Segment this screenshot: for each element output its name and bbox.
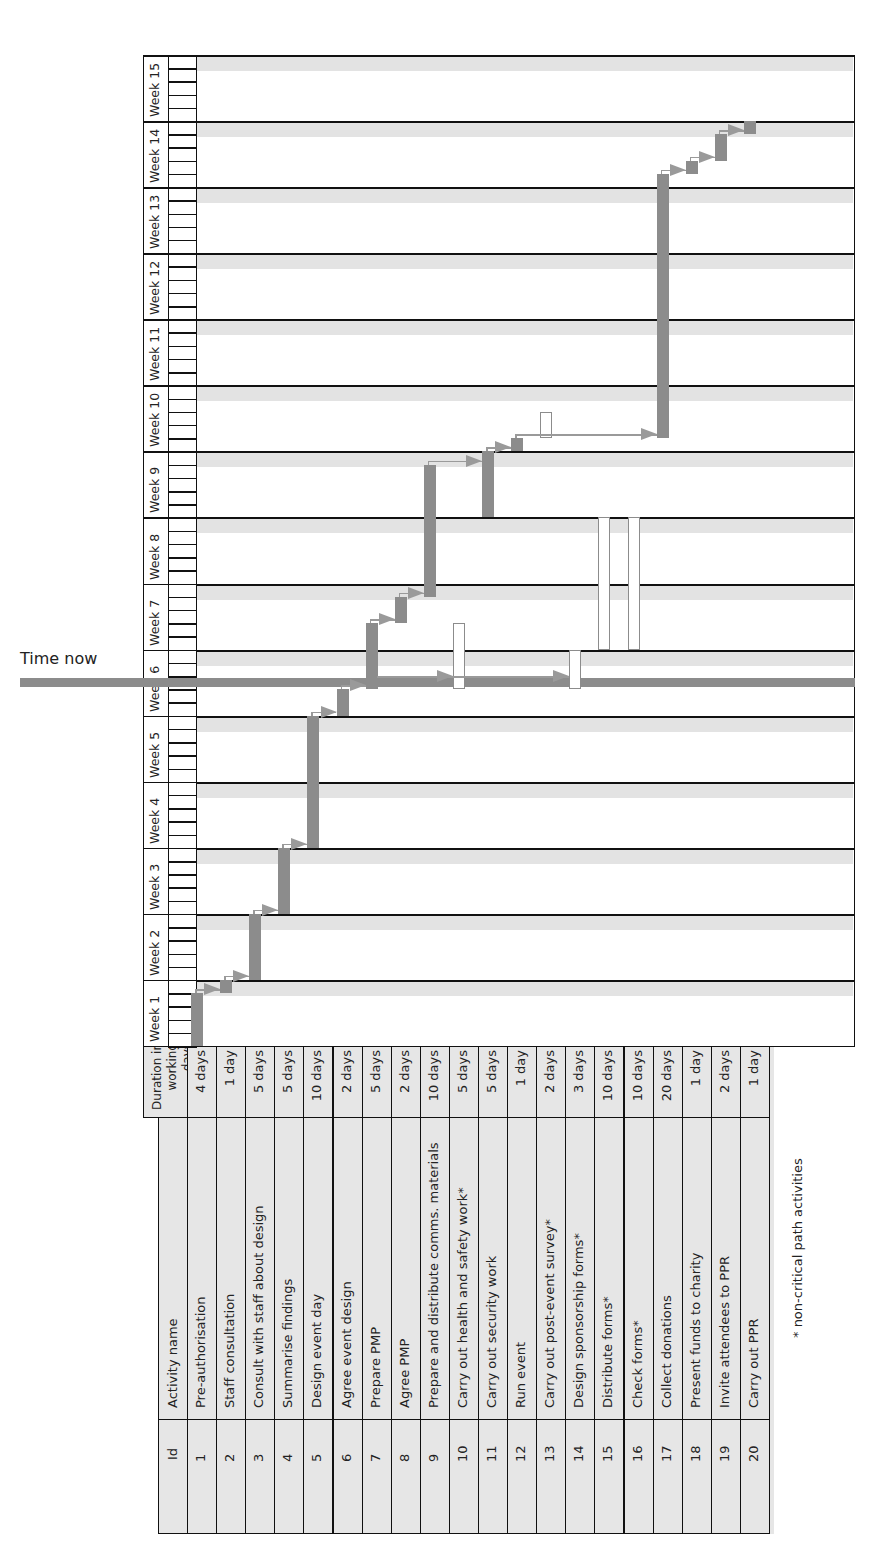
critical-task-bar [424, 465, 436, 597]
dependency-arrow-icon [553, 670, 569, 682]
table-row-duration: 5 days [280, 1050, 295, 1112]
week-divider [143, 980, 169, 982]
table-row-name: Design event day [309, 1294, 324, 1408]
table-row-name: Carry out health and safety work* [455, 1187, 470, 1408]
critical-task-bar [686, 161, 698, 174]
day-tick [168, 359, 197, 361]
table-row-id: 13 [542, 1445, 557, 1462]
day-tick [168, 451, 197, 453]
table-row-name: Pre-authorisation [193, 1297, 208, 1408]
table-row-name: Staff consultation [222, 1294, 237, 1408]
critical-task-bar [482, 451, 494, 517]
critical-task-bar [511, 438, 523, 451]
day-tick [168, 214, 197, 216]
week-gridline [196, 517, 855, 519]
table-row-id-cell [624, 1418, 654, 1534]
week-divider [143, 187, 169, 189]
table-row-id-cell [449, 1418, 479, 1534]
day-tick [168, 650, 197, 652]
week-band [197, 255, 853, 269]
non-critical-task-bar [569, 650, 581, 690]
week-band [197, 916, 853, 930]
footnote: * non-critical path activities [790, 1158, 805, 1338]
day-tick [168, 808, 197, 810]
week-gridline [196, 584, 855, 586]
day-tick [168, 570, 197, 572]
table-row-name: Collect donations [659, 1295, 674, 1408]
table-row-name: Distribute forms* [600, 1296, 615, 1408]
day-tick [168, 967, 197, 969]
week-divider [143, 451, 169, 453]
day-tick [168, 663, 197, 665]
week-label: Week 11 [147, 327, 162, 381]
day-tick [168, 980, 197, 982]
week-label: Week 9 [147, 467, 162, 513]
day-tick [168, 782, 197, 784]
table-row-duration: 10 days [426, 1050, 441, 1112]
critical-task-bar [395, 597, 407, 623]
day-tick [168, 557, 197, 559]
week-gridline [196, 385, 855, 387]
day-tick [168, 108, 197, 110]
critical-task-bar [220, 980, 232, 993]
day-tick [168, 597, 197, 599]
critical-task-bar [307, 716, 319, 848]
time-now-label: Time now [20, 649, 97, 668]
week-band [197, 453, 853, 467]
day-tick [168, 821, 197, 823]
non-critical-task-bar [453, 623, 465, 689]
table-row-id: 16 [630, 1445, 645, 1462]
day-tick [168, 702, 197, 704]
table-row-id-cell [507, 1418, 537, 1534]
table-row-id: 2 [222, 1454, 237, 1462]
day-tick [168, 887, 197, 889]
day-tick [168, 478, 197, 480]
table-row-id-cell [740, 1418, 770, 1534]
critical-task-bar [657, 174, 669, 438]
table-row-duration: 10 days [630, 1050, 645, 1112]
day-tick [168, 438, 197, 440]
dependency-arrow-icon [233, 970, 249, 982]
day-tick [168, 465, 197, 467]
day-tick [168, 769, 197, 771]
week-band [197, 519, 853, 533]
table-row-id: 18 [688, 1445, 703, 1462]
day-tick [168, 636, 197, 638]
table-row-id: 14 [571, 1445, 586, 1462]
day-tick [168, 795, 197, 797]
table-row-id: 6 [339, 1454, 354, 1462]
week-divider [143, 385, 169, 387]
day-tick [168, 161, 197, 163]
day-tick [168, 346, 197, 348]
table-row-id: 8 [397, 1454, 412, 1462]
day-tick [168, 610, 197, 612]
table-row-id: 1 [193, 1454, 208, 1462]
week-label: Week 15 [147, 63, 162, 117]
day-tick [168, 306, 197, 308]
table-row-duration: 20 days [659, 1050, 674, 1112]
header-id: Id [165, 1448, 180, 1460]
day-tick [168, 280, 197, 282]
week-divider [143, 253, 169, 255]
week-band [197, 982, 853, 996]
table-row-id: 3 [251, 1454, 266, 1462]
week-divider [143, 517, 169, 519]
table-row-duration: 4 days [193, 1050, 208, 1112]
table-row-name: Design sponsorship forms* [571, 1233, 586, 1408]
table-row-id: 4 [280, 1454, 295, 1462]
table-row-name: Run event [513, 1342, 528, 1408]
table-row-id-cell [303, 1418, 333, 1534]
dependency-arrow-icon [379, 613, 395, 625]
week-band [197, 652, 853, 666]
week-label: Week 14 [147, 129, 162, 183]
critical-task-bar [278, 848, 290, 914]
week-divider [143, 319, 169, 321]
week-divider [143, 650, 169, 652]
week-label: Week 8 [147, 533, 162, 579]
day-tick [168, 227, 197, 229]
week-gridline [196, 253, 855, 255]
table-row-duration: 3 days [571, 1050, 586, 1112]
day-tick [168, 848, 197, 850]
week-label: Week 7 [147, 599, 162, 645]
critical-task-bar [249, 914, 261, 980]
